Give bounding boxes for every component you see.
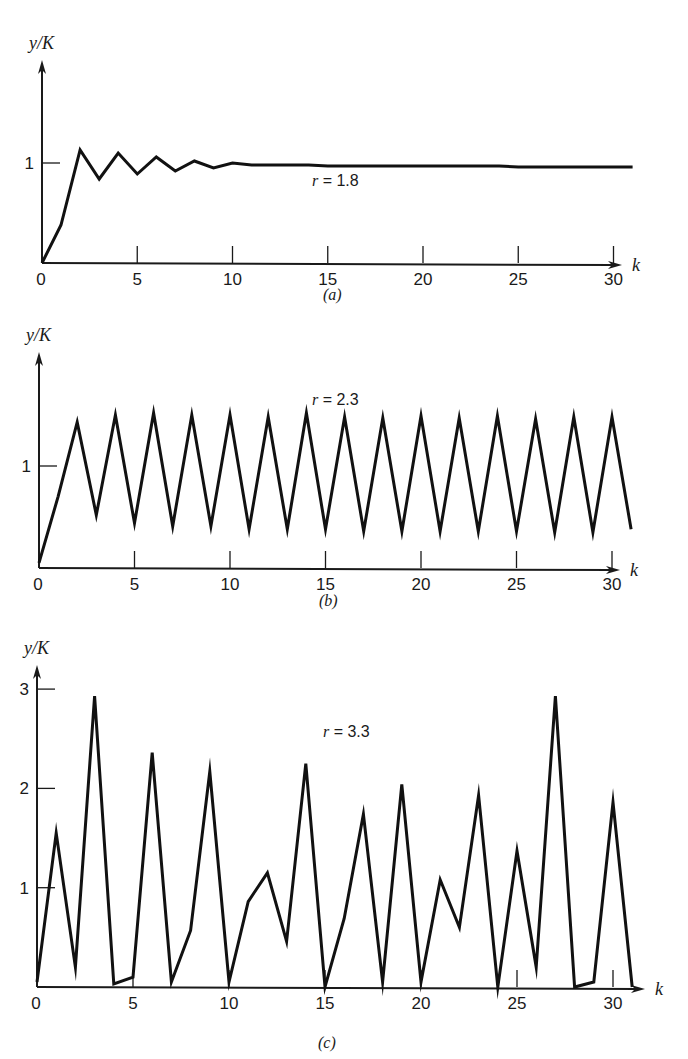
chart-panel-b: 051015202530 1 y/K k r = 2.3 (b)	[22, 325, 639, 610]
x-ticks: 051015202530	[33, 551, 621, 594]
panel-caption: (b)	[319, 592, 338, 610]
data-series-line	[39, 413, 631, 563]
x-tick-label: 30	[603, 575, 622, 594]
parameter-annotation: r = 2.3	[312, 391, 359, 408]
x-tick-label: 5	[128, 994, 137, 1013]
x-tick-label: 0	[31, 994, 40, 1013]
y-axis-label: y/K	[24, 325, 52, 345]
x-tick-label: 30	[604, 994, 623, 1013]
x-tick-label: 15	[316, 994, 335, 1013]
x-tick-label: 10	[220, 994, 239, 1013]
figure-canvas: 051015202530 1 y/K k r = 1.8 (a) 0510152…	[0, 0, 688, 1059]
y-axis-label: y/K	[27, 33, 55, 53]
x-tick-label: 25	[507, 575, 526, 594]
x-tick-label: 0	[36, 270, 45, 289]
x-tick-label: 20	[414, 270, 433, 289]
chart-panel-a: 051015202530 1 y/K k r = 1.8 (a)	[25, 33, 641, 304]
panel-caption: (a)	[323, 286, 342, 304]
x-tick-label: 30	[604, 270, 623, 289]
x-axis	[42, 263, 614, 265]
x-axis-label: k	[632, 255, 641, 275]
x-tick-label: 20	[412, 994, 431, 1013]
x-tick-label: 5	[130, 575, 139, 594]
x-tick-label: 0	[33, 575, 42, 594]
y-tick-label: 3	[20, 680, 29, 699]
parameter-annotation: r = 3.3	[323, 723, 370, 740]
x-tick-label: 25	[509, 270, 528, 289]
y-tick-label: 1	[25, 154, 34, 173]
panel-caption: (c)	[318, 1034, 336, 1052]
x-axis	[39, 568, 612, 570]
x-axis	[37, 987, 637, 989]
chart-panel-c: 051015202530 123 y/K k r = 3.3 (c)	[20, 638, 664, 1052]
y-tick-label: 1	[22, 457, 31, 476]
x-tick-label: 10	[221, 575, 240, 594]
x-ticks: 051015202530	[36, 246, 623, 289]
x-tick-label: 5	[133, 270, 142, 289]
parameter-annotation: r = 1.8	[312, 172, 359, 189]
x-tick-label: 10	[223, 270, 242, 289]
y-tick-label: 2	[20, 779, 29, 798]
y-axis-label: y/K	[22, 638, 50, 658]
data-series-line	[42, 150, 633, 263]
y-tick-label: 1	[20, 879, 29, 898]
x-axis-label: k	[655, 979, 664, 999]
x-axis-label: k	[630, 560, 639, 580]
x-tick-label: 25	[508, 994, 527, 1013]
x-tick-label: 20	[412, 575, 431, 594]
